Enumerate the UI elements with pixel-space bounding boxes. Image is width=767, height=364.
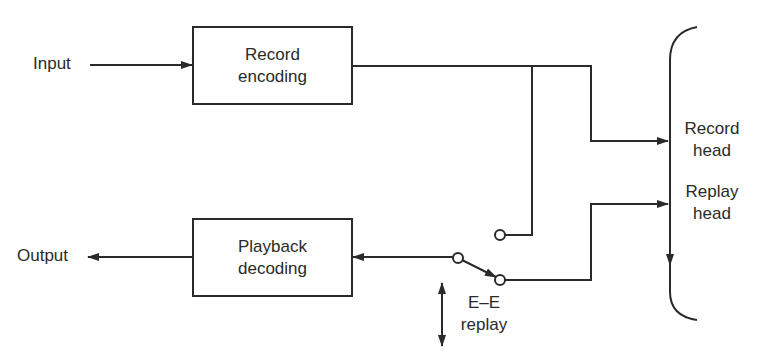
record-encoding-line2: encoding — [238, 66, 307, 88]
switch-pivot — [453, 253, 463, 263]
replay-head-line1: Replay — [680, 181, 744, 203]
switch-lever — [462, 260, 496, 277]
ee-replay-line2: replay — [452, 314, 516, 336]
ee-branch-wire — [505, 66, 532, 235]
input-label: Input — [33, 53, 71, 75]
playback-decoding-block: Playback decoding — [192, 218, 353, 297]
replay-head-label: Replay head — [680, 181, 744, 225]
switch-terminal-ee — [495, 230, 505, 240]
record-path — [352, 66, 668, 141]
output-label: Output — [17, 245, 68, 267]
ee-replay-line1: E–E — [452, 292, 516, 314]
replay-path — [505, 204, 668, 280]
diagram-wiring — [0, 0, 767, 364]
switch-terminal-replay — [495, 275, 505, 285]
record-encoding-block: Record encoding — [192, 26, 353, 105]
ee-replay-label: E–E replay — [452, 292, 516, 336]
record-head-line2: head — [680, 140, 744, 162]
replay-head-line2: head — [680, 203, 744, 225]
playback-decoding-line2: decoding — [238, 258, 307, 280]
record-encoding-line1: Record — [245, 44, 300, 66]
playback-decoding-line1: Playback — [238, 236, 307, 258]
record-head-label: Record head — [680, 118, 744, 162]
record-head-line1: Record — [680, 118, 744, 140]
head-bracket — [670, 27, 697, 320]
